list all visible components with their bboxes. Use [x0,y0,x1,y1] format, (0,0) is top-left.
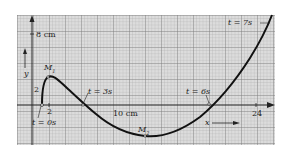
point-m1 [47,76,49,78]
time-label-t7: t = 7s [228,19,252,27]
x-tick-label: 24 [252,110,262,118]
point-m1-label: M1 [44,64,55,74]
x-axis-label: x [205,119,210,127]
point-m2-label: M2 [138,126,149,136]
time-label-t6: t = 6s [186,88,210,96]
time-label-t0: t = 0s [32,119,56,127]
point-t6 [208,103,210,105]
point-t3 [82,104,84,106]
y-tick-label: 2 [34,86,39,94]
x-scale-label: 10 cm [113,110,138,118]
x-origin-tick-label: 2 [47,108,52,116]
y-axis-label: y [24,70,29,78]
time-label-t3: t = 3s [88,88,112,96]
point-t0 [41,104,44,107]
y-scale-label: 8 cm [36,31,56,39]
